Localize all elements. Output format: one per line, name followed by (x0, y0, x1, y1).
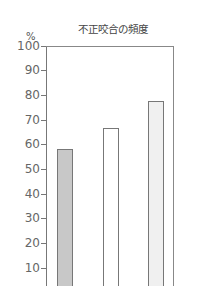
bar (103, 128, 119, 286)
y-tick-mark (41, 95, 46, 96)
y-tick-label: 100 (6, 40, 40, 52)
plot-right-border (173, 46, 174, 286)
y-tick-label: 50 (6, 163, 40, 175)
y-tick-label: 90 (6, 64, 40, 76)
y-tick-mark (41, 218, 46, 219)
y-tick-mark (41, 268, 46, 269)
bar-chart: 不正咬合の頻度 % 100 90 80 70 60 50 40 30 20 10 (0, 0, 197, 286)
y-tick-mark (41, 70, 46, 71)
y-tick-mark (41, 194, 46, 195)
y-tick-mark (41, 46, 46, 47)
chart-title: 不正咬合の頻度 (68, 21, 158, 36)
bar (57, 149, 73, 286)
y-tick-label: 40 (6, 188, 40, 200)
bar (148, 101, 164, 286)
y-tick-label: 20 (6, 237, 40, 249)
plot-top-border (46, 46, 173, 47)
y-tick-label: 70 (6, 114, 40, 126)
y-axis (46, 46, 47, 286)
y-tick-mark (41, 243, 46, 244)
y-tick-label: 30 (6, 212, 40, 224)
y-tick-mark (41, 144, 46, 145)
y-tick-label: 60 (6, 138, 40, 150)
y-tick-label: 80 (6, 89, 40, 101)
y-tick-mark (41, 120, 46, 121)
y-tick-mark (41, 169, 46, 170)
y-tick-label: 10 (6, 262, 40, 274)
